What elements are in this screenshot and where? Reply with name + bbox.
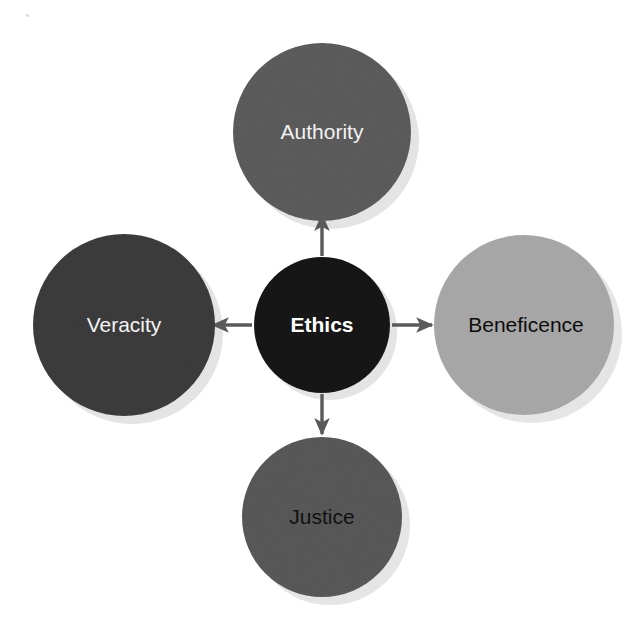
ethics-hub-and-spoke-diagram: Authority Veracity Beneficence Justice E… [0,0,639,625]
node-beneficence[interactable]: Beneficence [434,235,614,415]
diagram-canvas: Authority Veracity Beneficence Justice E… [0,0,639,625]
veracity-label: Veracity [87,313,162,336]
beneficence-label: Beneficence [468,313,584,336]
ethics-label: Ethics [290,313,353,336]
authority-label: Authority [281,120,364,143]
node-veracity[interactable]: Veracity [33,234,215,416]
justice-label: Justice [289,505,354,528]
node-ethics-center[interactable]: Ethics [254,257,390,393]
node-justice[interactable]: Justice [242,437,402,597]
node-authority[interactable]: Authority [233,43,411,221]
